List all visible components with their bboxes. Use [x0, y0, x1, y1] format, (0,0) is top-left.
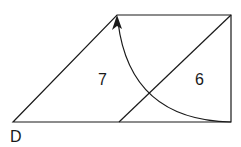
- arrowhead-icon: [112, 15, 122, 30]
- region-label-left: 7: [98, 71, 107, 88]
- trapezoid-outline: [13, 15, 231, 122]
- diagram-canvas: 7 6 D: [0, 0, 241, 147]
- inner-diagonal: [119, 15, 231, 122]
- region-label-right: 6: [195, 71, 204, 88]
- vertex-label-d: D: [10, 128, 22, 145]
